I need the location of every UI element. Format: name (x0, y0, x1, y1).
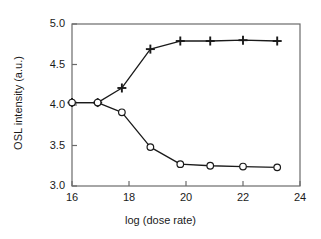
y-tick-label: 4.0 (24, 98, 65, 110)
circle-marker-icon (147, 144, 154, 151)
circle-marker-icon (207, 162, 214, 169)
circle-marker-icon (240, 163, 247, 170)
data-series (68, 36, 282, 107)
x-tick-label: 20 (166, 191, 206, 203)
circle-marker-icon (177, 161, 184, 168)
plot-area (0, 0, 321, 239)
x-axis-label: log (dose rate) (0, 214, 321, 226)
x-tick-label: 24 (280, 191, 320, 203)
circle-marker-icon (274, 164, 281, 171)
x-tick-label: 18 (109, 191, 149, 203)
y-tick-label: 3.5 (24, 139, 65, 151)
series-line (72, 103, 277, 168)
chart-figure: OSL intensity (a.u.) log (dose rate) 161… (0, 0, 321, 239)
circle-marker-icon (69, 99, 76, 106)
y-axis-label-container: OSL intensity (a.u.) (12, 22, 24, 184)
series-line (72, 40, 277, 102)
axes-frame (72, 24, 300, 186)
y-axis-label: OSL intensity (a.u.) (12, 56, 24, 150)
circle-marker-icon (94, 99, 101, 106)
circle-marker-icon (119, 109, 126, 116)
x-tick-label: 16 (52, 191, 92, 203)
x-tick-label: 22 (223, 191, 263, 203)
y-tick-label: 5.0 (24, 17, 65, 29)
data-series (69, 99, 281, 170)
y-tick-label: 4.5 (24, 58, 65, 70)
y-tick-label: 3.0 (24, 179, 65, 191)
